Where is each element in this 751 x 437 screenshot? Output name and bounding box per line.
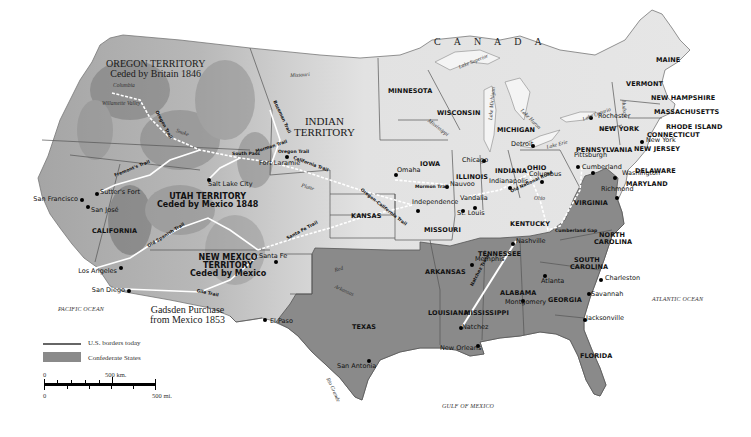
city-label: Santa Fe [259, 253, 287, 260]
scale-tick [155, 379, 156, 390]
city-dot-icon [86, 205, 90, 209]
utah-territory-label: UTAH TERRITORY Ceded by Mexico 1848 [157, 193, 258, 209]
city-dot-icon [263, 318, 267, 322]
scale-tick [67, 386, 68, 389]
gulf-of-mexico-label: GULF OF MEXICO [442, 403, 494, 409]
state-label: CALIFORNIA [92, 228, 137, 235]
scale-tick [85, 380, 86, 383]
city-label: Charleston [605, 275, 640, 282]
canada-label: CANADA [434, 37, 555, 47]
city-dot-icon [473, 206, 477, 210]
city-label: San José [91, 207, 119, 214]
state-label: LOUISIANA [428, 310, 469, 317]
new-mexico-territory-label: NEW MEXICO TERRITORY Ceded by Mexico [190, 254, 266, 278]
scale-km-label: 500 km. [105, 372, 126, 379]
city-label: Vandalia [460, 195, 488, 202]
city-dot-icon [95, 192, 99, 196]
state-label: GEORGIA [548, 297, 582, 304]
state-label: TEXAS [352, 324, 376, 331]
city-dot-icon [416, 209, 420, 213]
city-label: Omaha [397, 167, 421, 174]
city-label: New Orleans [440, 345, 481, 352]
city-label: Independence [412, 199, 458, 206]
legend-us-borders-text: U.S. borders today [88, 340, 141, 347]
scale-mi-label: 500 mi. [152, 393, 172, 400]
city-label: Nauvoo [450, 181, 475, 188]
city-dot-icon [470, 263, 474, 267]
state-label: VIRGINIA [574, 200, 608, 207]
legend-confederate-swatch [43, 352, 81, 362]
state-label: MICHIGAN [497, 127, 535, 134]
city-dot-icon [591, 171, 595, 175]
city-dot-icon [613, 176, 617, 180]
state-label: KANSAS [351, 213, 382, 220]
trail-label: South Pass [232, 152, 260, 157]
city-label: Pittsburgh [574, 152, 607, 159]
scale-tick [71, 380, 72, 383]
city-dot-icon [615, 196, 619, 200]
state-label: ALABAMA [500, 290, 536, 297]
state-label: KENTUCKY [510, 221, 550, 228]
river-label: Willamette Valley [102, 101, 140, 107]
state-label: MASSACHUSETTS [654, 109, 719, 116]
city-label: Washington [622, 170, 660, 177]
gadsden-purchase-label: Gadsden Purchase from Mexico 1853 [150, 305, 225, 325]
city-label: Los Angeles [78, 268, 117, 275]
gadsden-purchase-line2: from Mexico 1853 [150, 315, 225, 325]
scale-tick [44, 379, 45, 390]
state-label: VERMONT [626, 81, 663, 88]
utah-territory-note: Ceded by Mexico 1848 [157, 201, 258, 209]
new-mexico-territory-note: Ceded by Mexico [190, 270, 266, 278]
state-label: MAINE [656, 57, 680, 64]
atlantic-ocean-label: ATLANTIC OCEAN [652, 296, 703, 302]
city-label: San Antonia [337, 363, 376, 370]
state-label: WISCONSIN [437, 110, 480, 117]
indian-territory-label: INDIAN TERRITORY [294, 116, 355, 138]
city-label: Sutter's Fort [100, 189, 140, 196]
city-dot-icon [511, 242, 515, 246]
state-label: IOWA [420, 161, 440, 168]
state-label: CAROLINA [570, 264, 608, 271]
scale-tick [89, 386, 90, 389]
city-dot-icon [599, 278, 603, 282]
state-label: ARKANSAS [425, 269, 466, 276]
river-label: Hudson [621, 100, 628, 118]
city-dot-icon [576, 165, 580, 169]
river-label: Columbia [113, 83, 135, 89]
indian-territory-line2: TERRITORY [294, 127, 355, 138]
legend-confederate-text: Confederate States [88, 355, 141, 362]
city-label: San Francisco [33, 196, 78, 203]
city-label: Atlanta [541, 278, 564, 285]
city-label: Salt Lake City [208, 181, 252, 188]
city-label: Nashville [516, 238, 546, 245]
city-label: El Paso [270, 318, 293, 325]
city-dot-icon [127, 289, 131, 293]
city-label: Natchez [462, 324, 489, 331]
scale-tick [111, 386, 112, 389]
river-label: Missouri [290, 72, 310, 79]
scale-tick [112, 377, 113, 383]
city-label: San Diego [92, 287, 125, 294]
state-label: FLORIDA [580, 353, 612, 360]
state-label: NEW HAMPSHIRE [651, 95, 715, 102]
city-label: St. Louis [457, 210, 485, 217]
city-label: Jacksonville [586, 315, 624, 322]
state-label: CAROLINA [594, 239, 632, 246]
state-label: MISSOURI [424, 227, 461, 234]
pacific-ocean-label: PACIFIC OCEAN [58, 306, 104, 312]
legend-us-borders-line [43, 343, 81, 345]
city-dot-icon [640, 140, 644, 144]
city-label: Richmond [601, 186, 634, 193]
city-label: Montgomery [505, 299, 546, 306]
oregon-territory-label: OREGON TERRITORY Ceded by Britain 1846 [106, 59, 205, 79]
scale-tick [57, 380, 58, 383]
city-label: Savannah [591, 291, 623, 298]
scale-km-zero: 0 [43, 372, 46, 379]
scale-bar-line [44, 383, 155, 386]
city-label: Chicago [462, 157, 488, 164]
river-label: Ohio [534, 196, 545, 202]
state-label: RHODE ISLAND [666, 124, 722, 131]
state-label: MINNESOTA [388, 88, 432, 95]
city-label: Cumberland [582, 164, 622, 171]
state-label: NEW YORK [599, 126, 639, 133]
